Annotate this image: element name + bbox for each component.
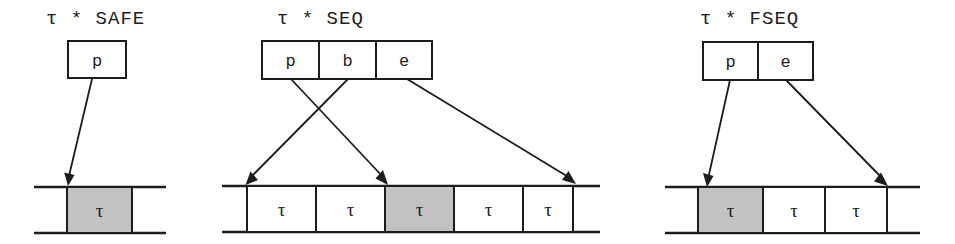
tape-cell: τ <box>316 186 385 232</box>
descriptor-tape-diagram: τ * SAFE p τ <box>0 0 955 244</box>
panel-safe-tape: τ <box>34 187 166 233</box>
arrow-shaft <box>69 79 93 178</box>
diagram-canvas: τ * SAFE p τ <box>0 0 955 244</box>
descriptor-cell-label-b: b <box>342 52 352 71</box>
tape-cell-label: τ <box>347 199 355 220</box>
descriptor-cell-label-p: p <box>92 52 102 71</box>
panel-fseq-descriptor-box: p e <box>703 42 813 80</box>
panel-safe-descriptor-box: p <box>68 41 126 78</box>
arrow-head <box>246 172 259 186</box>
arrow-shaft <box>250 79 348 178</box>
tape-cell-label: τ <box>485 199 493 220</box>
tape-cell: τ <box>247 186 316 232</box>
panel-fseq: τ * FSEQ p e <box>665 8 920 233</box>
descriptor-cell-label-e: e <box>780 53 790 72</box>
descriptor-cell-label-e: e <box>399 52 409 71</box>
descriptor-cell-label-p: p <box>285 52 295 71</box>
panel-seq-arrow-p <box>291 79 388 185</box>
arrow-shaft <box>786 80 883 179</box>
panel-safe: τ * SAFE p τ <box>34 8 166 233</box>
tape-cell-label: τ <box>727 200 735 221</box>
arrow-head <box>562 171 576 184</box>
panel-seq-tape: τ τ τ τ <box>222 186 600 232</box>
panel-seq-arrow-b <box>246 79 349 185</box>
panel-fseq-arrow-e <box>786 80 888 186</box>
arrow-head <box>703 173 714 187</box>
tape-cell: τ <box>67 187 132 233</box>
tape-cell-label: τ <box>96 200 104 221</box>
descriptor-cell-label-p: p <box>725 53 735 72</box>
tape-cell-label: τ <box>544 199 552 220</box>
tape-cell-label: τ <box>852 200 860 221</box>
tape-cell-label: τ <box>278 199 286 220</box>
arrow-shaft <box>407 79 570 178</box>
panel-seq-descriptor-box: p b e <box>262 41 432 79</box>
tape-cell: τ <box>454 186 523 232</box>
tape-cell-label: τ <box>790 200 798 221</box>
panel-seq-arrow-e <box>407 79 576 184</box>
arrow-shaft <box>291 79 384 178</box>
arrow-shaft <box>708 80 730 179</box>
panel-seq-title: τ * SEQ <box>277 8 364 30</box>
panel-fseq-tape: τ τ τ <box>665 187 920 233</box>
tape-cell-label: τ <box>416 199 424 220</box>
tape-cell: τ <box>523 186 573 232</box>
panel-fseq-arrow-p <box>703 80 730 187</box>
arrow-head <box>874 173 888 187</box>
panel-fseq-title: τ * FSEQ <box>700 8 799 30</box>
tape-cell: τ <box>698 187 763 233</box>
arrow-head <box>64 173 74 187</box>
panel-safe-arrow-p <box>64 79 92 186</box>
tape-cell: τ <box>763 187 825 233</box>
tape-cell: τ <box>385 186 454 232</box>
tape-cell: τ <box>825 187 887 233</box>
panel-seq: τ * SEQ p b e <box>222 8 600 232</box>
panel-safe-title: τ * SAFE <box>46 8 145 30</box>
